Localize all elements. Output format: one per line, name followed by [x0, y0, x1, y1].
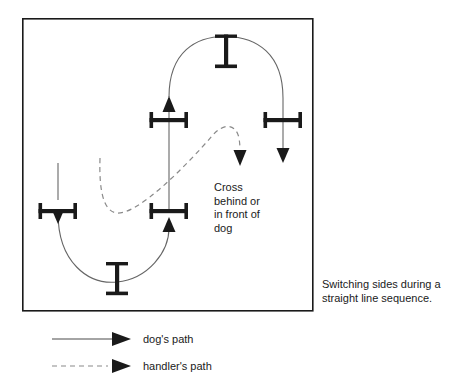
- legend-dog-arrow-right-icon: [112, 332, 131, 346]
- diagram-page: Cross behind or in front of dog Switchin…: [0, 0, 455, 392]
- legend-handler-arrow-right-icon: [112, 359, 131, 373]
- cross-annotation-label: Cross behind or in front of dog: [214, 181, 298, 235]
- legend-item-handler-path-label: handler's path: [143, 360, 212, 372]
- legend-graphics: [52, 332, 131, 373]
- figure-caption: Switching sides during a straight line s…: [322, 277, 452, 305]
- diagram-frame: [23, 19, 313, 311]
- legend-item-dog-path-label: dog's path: [143, 333, 193, 345]
